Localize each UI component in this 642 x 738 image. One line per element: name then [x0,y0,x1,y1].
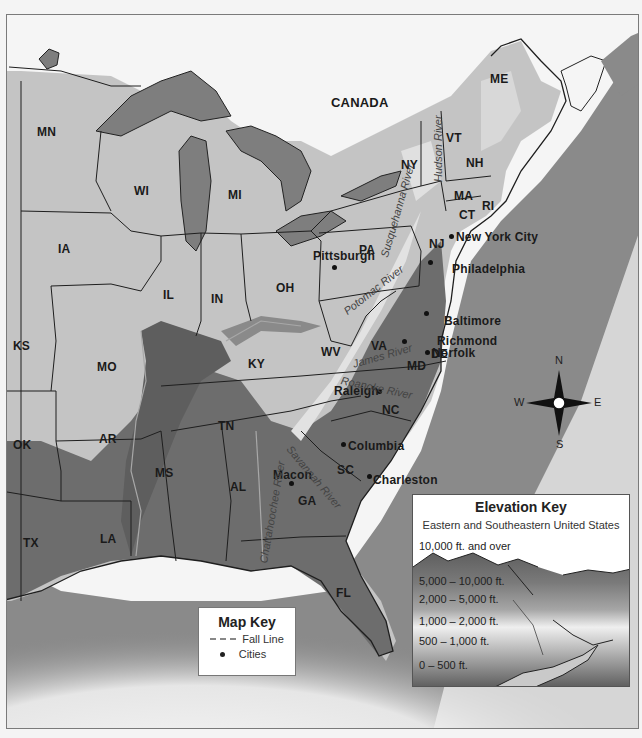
state-label-wi: WI [134,184,149,198]
state-label-vt: VT [446,131,462,145]
map-key-fall-line-label: Fall Line [242,633,284,645]
state-label-wv: WV [321,345,341,359]
state-label-ms: MS [155,466,173,480]
city-label-columbia: Columbia [348,439,404,453]
elevation-band-2000-5000: 2,000 – 5,000 ft. [419,593,499,605]
state-label-ky: KY [248,357,265,371]
elevation-band-10000-plus: 10,000 ft. and over [419,540,511,552]
state-label-ia: IA [58,242,70,256]
map-key-cities: Cities [199,648,295,660]
state-label-fl: FL [336,586,351,600]
city-dot-icon [341,442,346,447]
state-label-oh: OH [276,281,294,295]
map-key-title: Map Key [199,614,295,630]
state-label-mo: MO [97,360,117,374]
map-frame: CANADA MNWIMIIAILINOHPANYVTNHMEMACTRINJD… [6,14,639,729]
state-label-la: LA [100,532,116,546]
compass-north-label: N [555,354,563,366]
city-label-norfolk: Norfolk [432,346,475,360]
city-dot-icon [449,234,454,239]
state-label-ga: GA [298,494,316,508]
state-label-il: IL [163,288,174,302]
elevation-key-subtitle: Eastern and Southeastern United States [413,519,629,531]
state-label-ct: CT [459,208,475,222]
compass-star-icon [514,358,604,448]
city-dot-icon [428,260,433,265]
map-key: Map Key Fall Line Cities [198,607,296,676]
state-label-al: AL [230,480,246,494]
state-label-tn: TN [218,419,234,433]
elevation-band-5000-10000: 5,000 – 10,000 ft. [419,575,505,587]
elevation-key: Elevation Key Eastern and Southeastern U… [412,494,630,687]
state-label-tx: TX [23,536,39,550]
state-label-ks: KS [13,339,30,353]
elevation-band-500-1000: 500 – 1,000 ft. [419,635,489,647]
state-label-ok: OK [13,438,31,452]
compass-south-label: S [556,438,563,450]
city-label-philadelphia: Philadelphia [452,262,525,276]
state-label-md: MD [407,359,426,373]
city-dot-icon [220,652,225,657]
map-key-cities-label: Cities [239,648,267,660]
state-label-mn: MN [37,125,56,139]
city-label-charleston: Charleston [373,473,438,487]
city-label-baltimore: Baltimore [444,314,501,328]
elevation-band-0-500: 0 – 500 ft. [419,659,468,671]
elevation-band-1000-2000: 1,000 – 2,000 ft. [419,615,499,627]
city-label-pittsburgh: Pittsburgh [313,249,375,263]
map-key-fall-line: Fall Line [199,633,295,645]
city-dot-icon [424,311,429,316]
compass-rose: N S W E [514,358,604,448]
compass-west-label: W [514,396,524,408]
state-label-nj: NJ [429,237,445,251]
country-label-canada: CANADA [331,95,389,110]
city-dot-icon [332,265,337,270]
state-label-sc: SC [337,463,354,477]
dashed-line-icon [210,638,236,640]
compass-east-label: E [594,396,601,408]
state-label-in: IN [211,292,223,306]
state-label-me: ME [490,72,508,86]
state-label-nh: NH [466,156,484,170]
city-dot-icon [367,474,372,479]
state-label-mi: MI [228,188,242,202]
elevation-key-title: Elevation Key [413,499,629,515]
state-label-ma: MA [454,189,473,203]
river-label-hudson-river: Hudson River [432,115,444,182]
city-label-new-york-city: New York City [456,230,538,244]
state-label-ar: AR [99,432,117,446]
city-dot-icon [425,350,430,355]
state-label-ri: RI [482,199,494,213]
state-label-nc: NC [382,403,400,417]
